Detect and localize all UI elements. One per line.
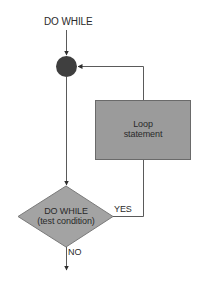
loop-statement-label: Loop statement bbox=[96, 119, 190, 139]
yes-label: YES bbox=[114, 204, 132, 214]
diagram-title: DO WHILE bbox=[44, 17, 93, 27]
loop-statement-line1: Loop bbox=[96, 119, 190, 129]
no-label: NO bbox=[68, 247, 81, 257]
decision-label: DO WHILE (test condition) bbox=[18, 206, 114, 226]
loop-statement-line2: statement bbox=[96, 129, 190, 139]
decision-line1: DO WHILE bbox=[18, 206, 114, 216]
decision-line2: (test condition) bbox=[18, 216, 114, 226]
do-while-flowchart bbox=[0, 0, 200, 285]
junction-connector bbox=[56, 56, 77, 77]
feedback-arrow bbox=[78, 67, 144, 101]
